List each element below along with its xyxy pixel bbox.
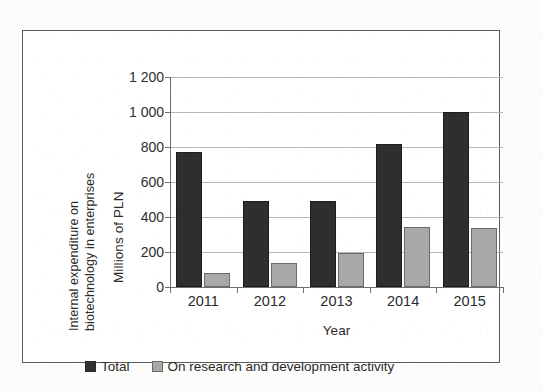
y-tick-label: 0 — [110, 279, 164, 295]
x-tick-mark — [503, 287, 504, 293]
bar-rnd-2015 — [471, 228, 497, 288]
y-tick-mark — [165, 147, 170, 148]
bar-total-2015 — [443, 112, 469, 287]
y-tick-mark — [165, 252, 170, 253]
legend-label: Total — [101, 359, 130, 374]
x-tick-label-2015: 2015 — [454, 293, 486, 309]
plot-inner — [170, 77, 503, 287]
y-tick-mark — [165, 77, 170, 78]
legend-label: On research and development activity — [168, 359, 395, 374]
plot-area — [170, 77, 503, 287]
bar-rnd-2011 — [204, 273, 230, 287]
dark-square-swatch — [85, 361, 96, 372]
bar-total-2011 — [176, 152, 202, 287]
y-tick-label: 200 — [110, 244, 164, 260]
bar-total-2012 — [243, 201, 269, 287]
y-axis-line — [170, 77, 171, 287]
y-tick-label: 1 000 — [110, 104, 164, 120]
bar-rnd-2014 — [404, 227, 430, 287]
bar-rnd-2012 — [271, 263, 297, 287]
chart-figure-frame: Internal expenditure on biotechnology in… — [22, 30, 500, 363]
y-tick-mark — [165, 112, 170, 113]
x-tick-label-2011: 2011 — [188, 293, 219, 309]
x-tick-label-2012: 2012 — [254, 293, 286, 309]
chart-legend: TotalOn research and development activit… — [85, 359, 394, 374]
x-axis-tick-labels: 20112012201320142015 — [170, 293, 503, 315]
y-tick-label: 800 — [110, 139, 164, 155]
legend-item-rnd: On research and development activity — [152, 359, 395, 374]
y-tick-label: 600 — [110, 174, 164, 190]
x-axis-title: Year — [170, 323, 503, 338]
y-tick-mark — [165, 217, 170, 218]
y-tick-mark — [165, 182, 170, 183]
bar-total-2013 — [310, 201, 336, 287]
y-tick-label: 400 — [110, 209, 164, 225]
x-axis-line — [170, 287, 503, 288]
gridline — [170, 77, 503, 78]
x-tick-label-2013: 2013 — [320, 293, 352, 309]
x-tick-label-2014: 2014 — [387, 293, 419, 309]
bar-total-2014 — [376, 144, 402, 288]
gray-square-swatch — [152, 361, 163, 372]
y-axis-title-line-1: Internal expenditure on — [67, 201, 81, 331]
bar-rnd-2013 — [338, 253, 364, 287]
legend-item-total: Total — [85, 359, 130, 374]
y-tick-label: 1 200 — [110, 69, 164, 85]
y-axis-tick-labels: 02004006008001 0001 200 — [108, 77, 164, 287]
y-axis-title-line-2: biotechnology in enterprises — [83, 173, 97, 331]
